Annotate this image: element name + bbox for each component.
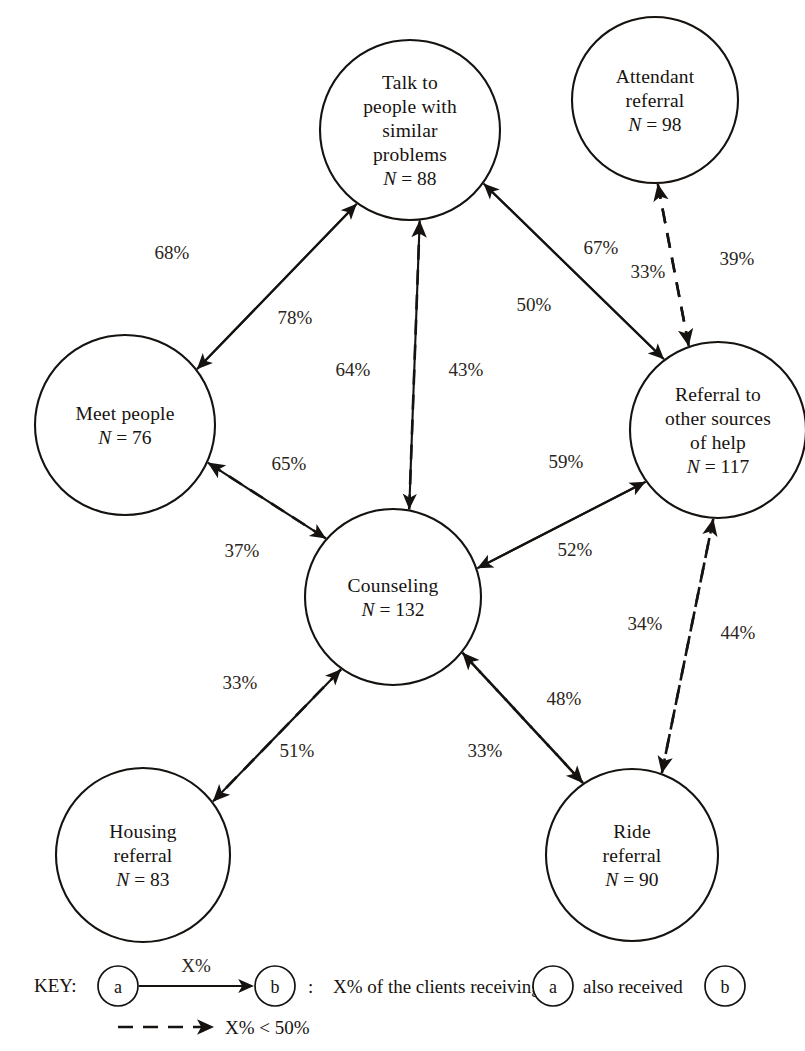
edge-label-counseling-to-housing: 33% [223,672,258,693]
node-label-attendant: Attendant [616,66,695,87]
node-label-talk: problems [373,144,447,165]
edge-label-referral-to-talk: 50% [517,294,552,315]
node-n-value-meet: N = 76 [97,427,152,448]
node-label-talk: Talk to [382,72,438,93]
edge-label-counseling-to-meet: 37% [225,540,260,561]
key-colon: : [308,976,313,997]
node-label-referral: of help [690,432,746,453]
edge-label-ride-to-counseling: 48% [547,688,582,709]
key-dashed-note: X% < 50% [225,1017,310,1038]
key-node-a-label: a [114,977,122,997]
node-housing[interactable]: HousingreferralN = 83 [56,768,230,942]
node-label-ride: referral [603,845,662,866]
edge-label-counseling-to-referral: 52% [558,539,593,560]
key-definition-part1: X% of the clients receiving [333,976,541,997]
node-attendant[interactable]: AttendantreferralN = 98 [572,17,738,183]
key-edge-value: X% [181,955,211,976]
node-n-value-ride: N = 90 [604,869,658,890]
node-label-ride: Ride [613,821,651,842]
node-n-value-housing: N = 83 [115,869,169,890]
node-n-value-counseling: N = 132 [360,599,424,620]
edge-ride-to-referral [662,521,713,774]
edge-label-referral-to-ride: 34% [628,613,663,634]
node-label-housing: Housing [109,821,177,842]
edge-label-attendant-to-referral: 39% [720,248,755,269]
node-n-value-attendant: N = 98 [627,114,681,135]
edge-label-meet-to-counseling: 65% [272,453,307,474]
edge-talk-to-counseling [409,220,419,507]
node-label-talk: similar [382,120,438,141]
key-node-b-label: b [271,977,280,997]
node-circle-counseling[interactable] [305,509,481,685]
network-diagram: Talk topeople withsimilarproblemsN = 88A… [0,0,805,1051]
node-n-value-talk: N = 88 [382,168,436,189]
edge-label-meet-to-talk: 78% [278,307,313,328]
node-circle-referral[interactable] [630,342,805,518]
node-n-value-referral: N = 117 [686,456,750,477]
node-counseling[interactable]: CounselingN = 132 [305,509,481,685]
node-label-attendant: referral [626,90,685,111]
edge-meet-to-talk [197,205,356,369]
key-definition-part2: also received [583,976,683,997]
node-talk[interactable]: Talk topeople withsimilarproblemsN = 88 [320,40,500,220]
edge-label-ride-to-referral: 44% [721,622,756,643]
node-label-referral: other sources [665,408,771,429]
legend-key: KEY: a X% b : X% of the clients receivin… [34,955,745,1038]
edge-label-talk-to-referral: 67% [584,237,619,258]
node-ride[interactable]: RidereferralN = 90 [546,769,718,941]
edge-meet-to-counseling [208,463,325,538]
node-label-housing: referral [114,845,173,866]
key-definition-node-b-label: b [721,977,730,997]
edge-label-talk-to-counseling: 64% [336,359,371,380]
node-label-talk: people with [363,96,457,117]
edge-label-counseling-to-ride: 33% [468,740,503,761]
node-label-counseling: Counseling [348,575,439,596]
edge-label-talk-to-meet: 68% [155,242,190,263]
key-definition-node-a-label: a [549,977,557,997]
network-diagram-canvas: Talk topeople withsimilarproblemsN = 88A… [0,0,805,1051]
edge-label-housing-to-counseling: 51% [280,740,315,761]
key-title: KEY: [34,975,77,996]
node-label-meet: Meet people [75,403,174,424]
node-meet[interactable]: Meet peopleN = 76 [35,335,215,515]
node-referral[interactable]: Referral toother sourcesof helpN = 117 [630,342,805,518]
nodes-layer: Talk topeople withsimilarproblemsN = 88A… [35,17,805,942]
edge-label-referral-to-attendant: 33% [631,261,666,282]
edge-label-counseling-to-talk: 43% [449,359,484,380]
node-circle-meet[interactable] [35,335,215,515]
edge-label-referral-to-counseling: 59% [549,451,584,472]
node-label-referral: Referral to [675,384,761,405]
